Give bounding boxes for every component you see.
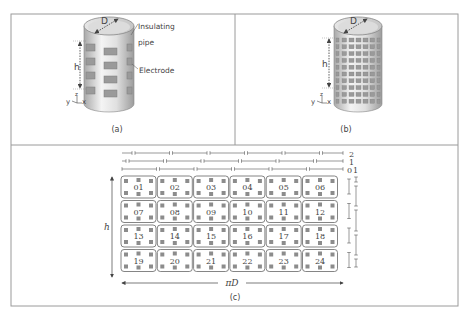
electrode-cell: 02 [157,176,192,198]
panel-c: 2 1 0 1 01020304050607080910111213141516… [104,150,358,302]
cylinder-b [334,17,382,112]
diameter-label-b: D [350,16,357,26]
svg-text:y: y [66,98,70,106]
electrode-cell: 16 [230,225,265,247]
electrode-cell: 24 [303,250,338,272]
electrode-cell-label: 15 [206,232,216,241]
electrode-cell: 07 [121,201,156,223]
electrode-cell-label: 02 [170,183,180,192]
electrode-cell: 03 [194,176,229,198]
height-label-b: h [322,59,328,69]
electrode-cell: 04 [230,176,265,198]
grid-width-label: πD [224,278,238,288]
electrode-cell-label: 10 [242,208,252,217]
axis-icon-a: y z x [66,91,86,106]
electrode-cell: 21 [194,250,229,272]
electrode-cell-label: 09 [206,208,216,217]
panel-b: D h y z x (b) [311,16,382,134]
electrode-cell-label: 11 [279,208,289,217]
caption-a: (a) [111,125,122,134]
electrode-cell: 14 [157,225,192,247]
electrode-cell-label: 24 [315,257,325,266]
svg-text:z: z [320,91,323,97]
diameter-label-a: D [101,16,108,26]
electrode-cell: 18 [303,225,338,247]
caption-c: (c) [230,293,241,302]
electrode-grid: 0102030405060708091011121314151617181920… [121,176,338,272]
layer-label-0: 0 [347,166,352,175]
electrode-cell-label: 23 [279,257,289,266]
electrode-cell-label: 19 [133,257,143,266]
electrode-cell-label: 12 [315,208,325,217]
electrode-cell: 01 [121,176,156,198]
electrode-cell: 15 [194,225,229,247]
electrode-cell: 19 [121,250,156,272]
electrode-cell: 09 [194,201,229,223]
vertical-dimension-lines [349,177,356,268]
electrode-cell-label: 14 [170,232,180,241]
insulating-pipe-label-2: pipe [138,38,155,47]
electrode-cell: 10 [230,201,265,223]
svg-text:x: x [82,98,86,106]
electrode-label: Electrode [139,66,175,75]
electrode-cell: 13 [121,225,156,247]
electrode-cell: 20 [157,250,192,272]
cylinder-a [84,17,134,112]
electrode-cell-label: 18 [315,232,325,241]
svg-text:y: y [311,98,315,106]
panel-a: D h Insulating pipe Electrode y z x (a) [66,16,175,134]
caption-b: (b) [340,125,351,134]
insulating-pipe-label-1: Insulating [138,22,175,31]
layer-dimension-lines [122,153,343,169]
electrode-cell-label: 22 [242,257,252,266]
electrode-cell-label: 20 [170,257,180,266]
electrode-cell-label: 03 [206,183,216,192]
grid-height-label: h [104,222,110,232]
electrode-cell-label: 17 [279,232,289,241]
height-label-a: h [74,62,80,72]
electrode-cell-label: 01 [133,183,143,192]
electrode-cell: 23 [266,250,301,272]
electrode-cell: 05 [266,176,301,198]
electrode-cell-label: 06 [315,183,325,192]
electrode-cell-label: 13 [133,232,143,241]
electrode-cell-label: 16 [242,232,252,241]
electrode-cell-label: 05 [279,183,289,192]
electrode-cell: 06 [303,176,338,198]
electrode-cell-label: 07 [133,208,143,217]
layer-label-0-1: 1 [353,166,358,175]
svg-text:x: x [327,98,331,106]
electrode-cell-label: 21 [206,257,216,266]
axis-icon-b: y z x [311,91,331,106]
figure: D h Insulating pipe Electrode y z x (a) [0,0,468,317]
electrode-cell: 08 [157,201,192,223]
electrode-cell: 12 [303,201,338,223]
electrode-cell: 11 [266,201,301,223]
electrode-cell: 22 [230,250,265,272]
electrode-cell-label: 04 [242,183,252,192]
svg-text:z: z [75,91,78,97]
electrode-cell-label: 08 [170,208,180,217]
electrode-cell: 17 [266,225,301,247]
